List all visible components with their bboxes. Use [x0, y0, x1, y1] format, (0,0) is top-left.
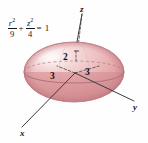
ellipsoid-figure: r2 9 + z2 4 = 1 z y x 2 3 3 [0, 0, 148, 143]
equation-operator: + [19, 24, 24, 33]
x-intercept-label: 3 [50, 72, 55, 82]
y-axis-label: y [133, 103, 137, 112]
equation-numerator-1: r2 [8, 19, 16, 28]
equation-right-hand-side: 1 [45, 24, 50, 33]
equation-denominator-2: 4 [27, 29, 33, 38]
x-axis-label: x [20, 129, 25, 138]
z-intercept-label: 2 [63, 53, 68, 63]
surface-equation: r2 9 + z2 4 = 1 [7, 19, 49, 38]
equation-numerator-2: z2 [26, 19, 34, 28]
z-axis-label: z [80, 5, 84, 14]
equation-fraction-1: r2 9 [8, 19, 17, 38]
equation-equals-sign: = [37, 24, 42, 33]
y-intercept-label: 3 [85, 68, 90, 78]
equation-denominator-1: 9 [9, 29, 15, 38]
equation-fraction-2: z2 4 [26, 19, 35, 38]
